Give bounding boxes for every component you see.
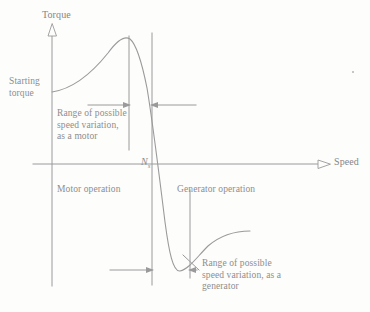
generator-range-right-arrowhead: [188, 267, 196, 273]
motor-operation-label: Motor operation: [57, 184, 121, 196]
motor-speed-range-label: Range of possible speed variation, as a …: [57, 108, 127, 143]
synchronous-speed-subscript: s: [148, 162, 151, 170]
generator-range-left-arrowhead: [146, 267, 154, 273]
motor-range-right-arrowhead: [150, 102, 158, 108]
synchronous-speed-label: Ns: [141, 156, 151, 173]
speed-axis-label: Speed: [334, 156, 359, 168]
torque-axis-label: Torque: [42, 9, 71, 21]
generator-range-leader-line: [183, 255, 199, 270]
generator-operation-label: Generator operation: [177, 184, 255, 196]
torque-speed-figure: Torque Speed Starting torque Ns Range of…: [0, 0, 370, 312]
synchronous-speed-symbol: N: [141, 156, 148, 167]
starting-torque-label: Starting torque: [9, 76, 40, 99]
speed-axis-arrowhead: [318, 160, 330, 168]
torque-speed-curve: [52, 38, 250, 271]
torque-axis-arrowhead: [48, 24, 56, 36]
generator-speed-range-label: Range of possible speed variation, as a …: [202, 258, 281, 293]
scan-artifact-speck: [352, 71, 354, 73]
